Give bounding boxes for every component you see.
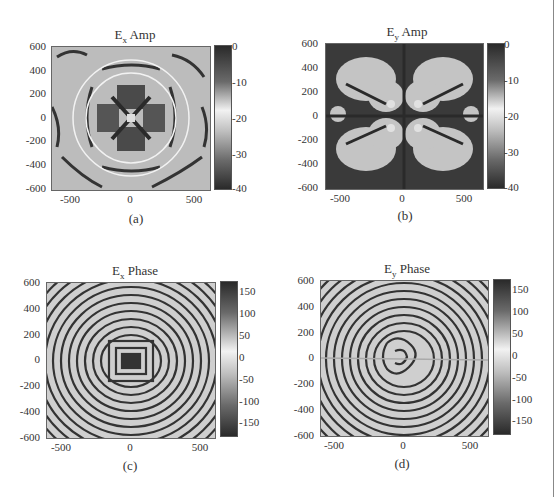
panel-b-cbar-tick: -20 xyxy=(504,110,519,122)
panel-b-cbar-tick: -10 xyxy=(504,74,519,86)
panel-c-xtick: 500 xyxy=(180,441,220,453)
panel-c-xtick: 0 xyxy=(110,441,150,453)
panel-c-cbar-tick: -100 xyxy=(239,395,259,407)
panel-d-caption: (d) xyxy=(382,456,422,472)
panel-a-cbar-tick: -40 xyxy=(232,182,247,194)
panel-a-cbar-tick: -30 xyxy=(232,148,247,160)
panel-c-ytick: -400 xyxy=(6,405,40,417)
panel-d-xtick: 0 xyxy=(383,439,423,451)
panel-a-colorbar xyxy=(214,45,232,190)
panel-b-cbar-tick: 0 xyxy=(504,38,510,50)
panel-d-cbar-tick: -100 xyxy=(512,393,532,405)
panel-a-title: Ex Amp xyxy=(90,27,180,45)
panel-b-cbar-tick: -30 xyxy=(504,146,519,158)
panel-d-cbar-tick: 150 xyxy=(512,283,529,295)
panel-d-cbar-tick: -150 xyxy=(512,414,532,426)
panel-a-xtick: 500 xyxy=(174,193,214,205)
panel-c-ytick: 200 xyxy=(6,328,40,340)
panel-c-cbar-tick: -50 xyxy=(239,373,254,385)
panel-a-ytick: 0 xyxy=(12,111,46,123)
panel-d-title: Ey Phase xyxy=(362,261,452,279)
panel-d-heatmap xyxy=(320,280,489,437)
panel-d-cbar-tick: -50 xyxy=(512,371,527,383)
panel-c-cbar-tick: 0 xyxy=(239,351,245,363)
panel-c-ytick: 600 xyxy=(6,276,40,288)
panel-b-xtick: 0 xyxy=(382,192,422,204)
panel-d-ytick: -600 xyxy=(280,429,314,441)
panel-a-xtick: -500 xyxy=(50,193,90,205)
panel-b-xtick: -500 xyxy=(320,192,360,204)
page-border-line xyxy=(553,0,554,497)
panel-b-ytick: -200 xyxy=(284,133,318,145)
panel-a-ytick: 200 xyxy=(12,87,46,99)
panel-c-xtick: -500 xyxy=(41,441,81,453)
panel-d-xtick: 500 xyxy=(450,439,490,451)
panel-d-ytick: 0 xyxy=(280,351,314,363)
panel-c-heatmap xyxy=(46,282,216,439)
panel-c-cbar-tick: -150 xyxy=(239,416,259,428)
panel-a-ytick: -600 xyxy=(12,182,46,194)
panel-d-cbar-tick: 0 xyxy=(512,349,518,361)
panel-d-ytick: 600 xyxy=(280,274,314,286)
panel-a-ytick: -200 xyxy=(12,134,46,146)
panel-c-ytick: -600 xyxy=(6,431,40,443)
panel-a-cbar-tick: -10 xyxy=(232,76,247,88)
panel-b-title: Ey Amp xyxy=(362,24,452,42)
panel-b-cbar-tick: -40 xyxy=(504,181,519,193)
panel-a-heatmap xyxy=(51,46,211,191)
panel-b-ytick: 400 xyxy=(284,61,318,73)
panel-d-cbar-tick: 50 xyxy=(512,327,523,339)
panel-a-cbar-tick: 0 xyxy=(232,40,238,52)
panel-c-ytick: 0 xyxy=(6,353,40,365)
panel-c-caption: (c) xyxy=(110,458,150,474)
panel-b-xtick: 500 xyxy=(444,192,484,204)
panel-d-ytick: -200 xyxy=(280,377,314,389)
panel-c-title: Ex Phase xyxy=(90,263,180,281)
panel-c-ytick: 400 xyxy=(6,302,40,314)
panel-a-xtick: 0 xyxy=(110,193,150,205)
panel-b-ytick: 200 xyxy=(284,85,318,97)
panel-c-colorbar xyxy=(220,281,238,437)
panel-b-ytick: -600 xyxy=(284,181,318,193)
panel-d-colorbar xyxy=(493,279,511,435)
panel-b-ytick: 600 xyxy=(284,37,318,49)
panel-c-cbar-tick: 50 xyxy=(239,329,250,341)
panel-b-ytick: -400 xyxy=(284,157,318,169)
panel-c-cbar-tick: 150 xyxy=(239,285,256,297)
panel-d-ytick: 200 xyxy=(280,326,314,338)
panel-a-ytick: 400 xyxy=(12,64,46,76)
panel-d-ytick: -400 xyxy=(280,403,314,415)
panel-c-ytick: -200 xyxy=(6,379,40,391)
panel-d-xtick: -500 xyxy=(314,439,354,451)
panel-d-cbar-tick: 100 xyxy=(512,305,529,317)
panel-a-ytick: -400 xyxy=(12,158,46,170)
panel-c-cbar-tick: 100 xyxy=(239,307,256,319)
panel-b-ytick: 0 xyxy=(284,109,318,121)
panel-b-heatmap xyxy=(325,43,484,190)
panel-b-colorbar xyxy=(487,43,505,189)
panel-d-ytick: 400 xyxy=(280,300,314,312)
panel-a-caption: (a) xyxy=(116,211,156,227)
panel-a-ytick: 600 xyxy=(12,40,46,52)
panel-a-cbar-tick: -20 xyxy=(232,112,247,124)
panel-b-caption: (b) xyxy=(385,208,425,224)
